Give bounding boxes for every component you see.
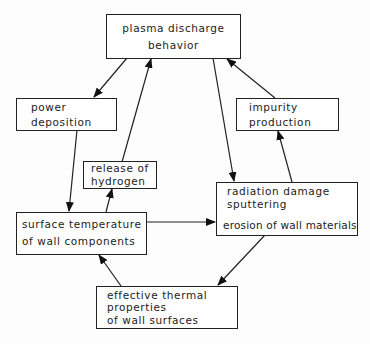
node-label-line: hydrogen — [91, 175, 156, 188]
arrow-radiation-to-thermal — [218, 235, 265, 285]
node-power-deposition: power deposition — [16, 98, 117, 131]
arrow-plasma-to-radiation — [213, 58, 234, 181]
feedback-diagram: plasma discharge behavior power depositi… — [0, 0, 370, 344]
node-label-line: of wall surfaces — [107, 314, 237, 326]
arrow-impurity-to-plasma — [227, 59, 275, 98]
node-surface-temperature: surface temperature of wall components — [16, 212, 147, 255]
node-label-line: power — [31, 100, 116, 115]
node-label-line: release of — [91, 162, 156, 175]
node-label-line: erosion of wall materials — [223, 219, 357, 232]
arrow-thermal-to-surface — [99, 255, 121, 286]
node-label-line: surface temperature — [22, 217, 146, 232]
node-release-of-hydrogen: release of hydrogen — [83, 161, 157, 189]
node-label-line: of wall components — [22, 234, 146, 249]
node-label-line: effective thermal — [107, 289, 237, 301]
arrow-surface-to-hydrogen — [106, 189, 112, 212]
arrow-radiation-to-impurity — [278, 131, 292, 182]
node-label-line: production — [249, 115, 338, 130]
node-label-line: sputtering — [227, 198, 357, 211]
node-label-line: plasma discharge — [107, 21, 240, 36]
node-radiation-damage: radiation damage sputtering erosion of w… — [216, 182, 358, 236]
arrow-plasma-to-power — [94, 58, 127, 97]
node-plasma-discharge: plasma discharge behavior — [106, 14, 241, 59]
node-label-line: radiation damage — [227, 185, 357, 198]
node-effective-thermal-properties: effective thermal properties of wall sur… — [96, 286, 238, 329]
node-label-line: impurity — [249, 100, 338, 115]
node-label-line: deposition — [31, 115, 116, 130]
arrow-hydrogen-to-plasma — [122, 59, 151, 162]
node-label-line: behavior — [107, 38, 240, 53]
arrow-power-to-surface — [69, 130, 77, 211]
node-label-line: properties — [107, 301, 237, 313]
node-impurity-production: impurity production — [236, 98, 339, 131]
